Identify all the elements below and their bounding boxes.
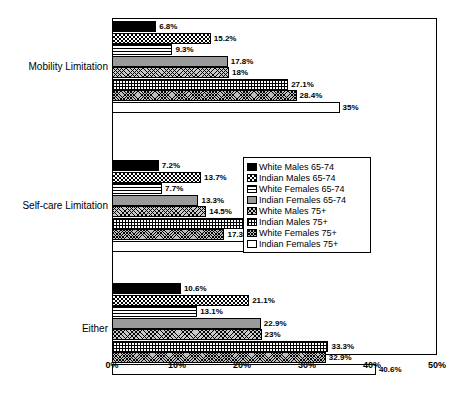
bar [112,79,288,90]
legend-swatch-icon [247,185,257,193]
x-tick-label: 10% [168,360,186,370]
legend-swatch-icon [247,163,257,171]
legend-item: Indian Males 65-74 [247,172,367,183]
legend-swatch-icon [247,174,257,182]
x-tick-label: 0% [105,360,118,370]
legend-item-label: White Females 65-74 [259,184,345,194]
bar-value-label: 10.6% [184,284,207,293]
bar-value-label: 13.3% [201,196,224,205]
bar [112,21,156,32]
bar [112,172,201,183]
bar [112,90,297,101]
bar-value-label: 28.4% [300,91,323,100]
bar [112,183,162,194]
x-tick-label: 50% [428,360,446,370]
bar-value-label: 21.1% [252,296,275,305]
bar-value-label: 40.6% [379,365,402,374]
bar-value-label: 13.7% [204,173,227,182]
legend-item-label: Indian Females 65-74 [259,195,346,205]
bar-value-label: 7.7% [165,184,183,193]
bar [112,329,262,340]
bar-value-label: 9.3% [175,45,193,54]
legend-item: Indian Females 65-74 [247,194,367,205]
legend-swatch-icon [247,229,257,237]
legend-item: White Females 75+ [247,227,367,238]
legend-item-label: White Males 65-74 [259,162,334,172]
bar [112,44,172,55]
bar [112,241,263,252]
legend-swatch-icon [247,196,257,204]
legend-item-label: Indian Females 75+ [259,239,338,249]
bar-value-label: 35% [343,103,359,112]
bar-value-label: 32.9% [329,353,352,362]
legend-item: Indian Females 75+ [247,238,367,249]
bar-value-label: 33.3% [331,342,354,351]
bar-value-label: 13.1% [200,307,223,316]
bar-value-label: 7.2% [162,161,180,170]
legend-item: Indian Males 75+ [247,216,367,227]
bar [112,352,326,363]
bar-value-label: 22.9% [264,319,287,328]
bar [112,67,229,78]
legend-item-label: Indian Males 65-74 [259,173,336,183]
bar-value-label: 17.8% [231,57,254,66]
legend-swatch-icon [247,218,257,226]
bar-value-label: 6.8% [159,22,177,31]
bar [112,306,197,317]
legend-swatch-icon [247,240,257,248]
bar [112,102,340,113]
bar [112,283,181,294]
bar [112,160,159,171]
legend-item: White Males 75+ [247,205,367,216]
bar-chart: Mobility LimitationSelf-care LimitationE… [0,0,453,401]
bar [112,33,211,44]
x-tick-label: 30% [298,360,316,370]
bar [112,56,228,67]
x-tick-label: 40% [363,360,381,370]
legend-item-label: Indian Males 75+ [259,217,328,227]
bar [112,195,198,206]
bar [112,341,328,352]
category-label: Mobility Limitation [2,61,108,72]
bar [112,229,224,240]
bar [112,218,256,229]
legend-item: White Females 65-74 [247,183,367,194]
legend: White Males 65-74Indian Males 65-74White… [243,157,371,253]
bar-value-label: 27.1% [291,80,314,89]
bar [112,295,249,306]
bar-value-label: 18% [232,68,248,77]
bar [112,318,261,329]
bar-value-label: 15.2% [214,34,237,43]
x-tick-label: 20% [233,360,251,370]
category-label: Self-care Limitation [2,200,108,211]
legend-item-label: White Females 75+ [259,228,337,238]
category-label: Either [2,323,108,334]
bar [112,206,206,217]
legend-item-label: White Males 75+ [259,206,326,216]
legend-item: White Males 65-74 [247,161,367,172]
bar-value-label: 14.5% [209,207,232,216]
bar-value-label: 23% [265,330,281,339]
legend-swatch-icon [247,207,257,215]
